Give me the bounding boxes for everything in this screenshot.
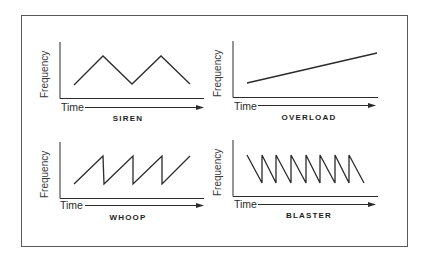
panel-title: OVERLOAD bbox=[282, 113, 337, 122]
y-axis-label: Frequency bbox=[39, 151, 50, 198]
y-axis-label: Frequency bbox=[39, 51, 50, 98]
panel-title: SIREN bbox=[113, 114, 143, 123]
x-axis-label: Time bbox=[60, 199, 83, 211]
x-axis-label: Time bbox=[234, 198, 257, 210]
panel-whoop: Frequency Time WHOOP bbox=[39, 142, 204, 222]
panel-blaster: Frequency Time BLASTER bbox=[212, 140, 378, 220]
x-axis-label: Time bbox=[234, 100, 257, 112]
waveform-line bbox=[247, 155, 364, 183]
waveform-line bbox=[247, 53, 377, 83]
panel-siren: Frequency Time SIREN bbox=[39, 42, 204, 123]
waveform-line bbox=[74, 156, 190, 184]
panel-overload: Frequency Time OVERLOAD bbox=[212, 41, 378, 122]
waveform-line bbox=[74, 56, 190, 85]
y-axis-label: Frequency bbox=[212, 149, 223, 196]
x-axis-label: Time bbox=[61, 101, 84, 113]
y-axis-label: Frequency bbox=[212, 50, 223, 97]
panel-title: WHOOP bbox=[109, 213, 146, 222]
siren-types-diagram: Frequency Time SIREN Frequency Time OVER… bbox=[0, 0, 426, 262]
panel-title: BLASTER bbox=[286, 211, 332, 220]
